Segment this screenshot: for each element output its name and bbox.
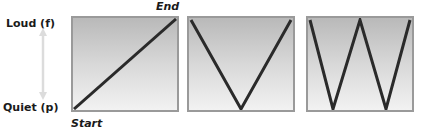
rising-line <box>73 18 177 110</box>
panel-w-shape <box>306 16 414 112</box>
panel-v-shape <box>187 16 295 112</box>
w-line <box>308 18 412 110</box>
panel-crescendo <box>71 16 179 112</box>
quiet-label: Quiet (p) <box>3 101 58 114</box>
v-line <box>189 18 293 110</box>
double-arrow-icon <box>37 28 49 100</box>
start-label: Start <box>71 117 102 130</box>
end-label: End <box>156 0 179 13</box>
